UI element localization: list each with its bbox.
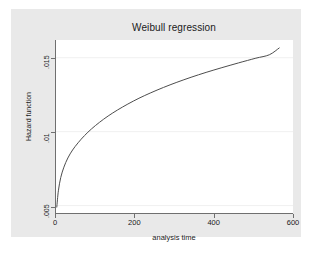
graph-region: Weibull regression Hazard function analy… — [11, 9, 301, 237]
gridlines — [56, 58, 293, 206]
hazard-function-curve — [57, 48, 279, 207]
x-tick-label-1: 200 — [119, 218, 149, 227]
y-tick-label-1: .01 — [43, 133, 50, 143]
x-axis-title: analysis time — [55, 233, 293, 242]
x-tick-mark-1 — [134, 214, 135, 218]
caption-fragment — [14, 242, 244, 251]
y-axis-title: Hazard function — [25, 62, 32, 172]
x-tick-mark-0 — [55, 214, 56, 218]
y-tick-label-2: .015 — [43, 55, 50, 69]
chart-title: Weibull regression — [55, 22, 293, 33]
x-tick-label-3: 600 — [278, 218, 308, 227]
figure: Weibull regression Hazard function analy… — [0, 0, 312, 253]
x-tick-label-0: 0 — [40, 218, 70, 227]
x-tick-label-2: 400 — [199, 218, 229, 227]
y-tick-label-0: .005 — [43, 204, 50, 218]
plot-svg — [56, 40, 293, 213]
x-tick-mark-2 — [214, 214, 215, 218]
x-tick-mark-3 — [293, 214, 294, 218]
plot-area — [55, 40, 293, 214]
